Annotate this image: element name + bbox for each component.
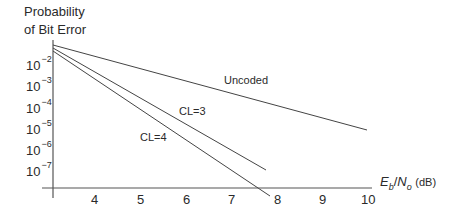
x-tick-label: 4 [91,192,98,207]
x-tick-label: 6 [183,192,190,207]
x-tick-label: 5 [137,192,144,207]
x-tick-label: 8 [274,192,281,207]
y-tick-label: 10−5 [26,121,52,137]
series-line-cl4 [53,51,270,196]
series-label-cl3: CL=3 [179,105,206,117]
y-tick-label: 10−7 [26,163,52,179]
y-axis-title-line2: of Bit Error [24,21,86,39]
series-label-uncoded: Uncoded [224,74,268,86]
series-line-uncoded [53,45,367,130]
y-tick-label: 10−2 [26,57,52,73]
x-tick-label: 9 [319,192,326,207]
series-line-cl3 [53,48,266,170]
y-tick-label: 10−6 [26,142,52,158]
y-tick-label: 10−3 [26,78,52,94]
x-tick-label: 10 [361,192,375,207]
series-label-cl4: CL=4 [140,131,167,143]
x-tick-label: 7 [228,192,235,207]
y-axis-title-line1: Probability [24,3,85,21]
x-axis-title: Eb/No (dB) [380,174,436,192]
y-tick-label: 10−4 [26,100,52,116]
